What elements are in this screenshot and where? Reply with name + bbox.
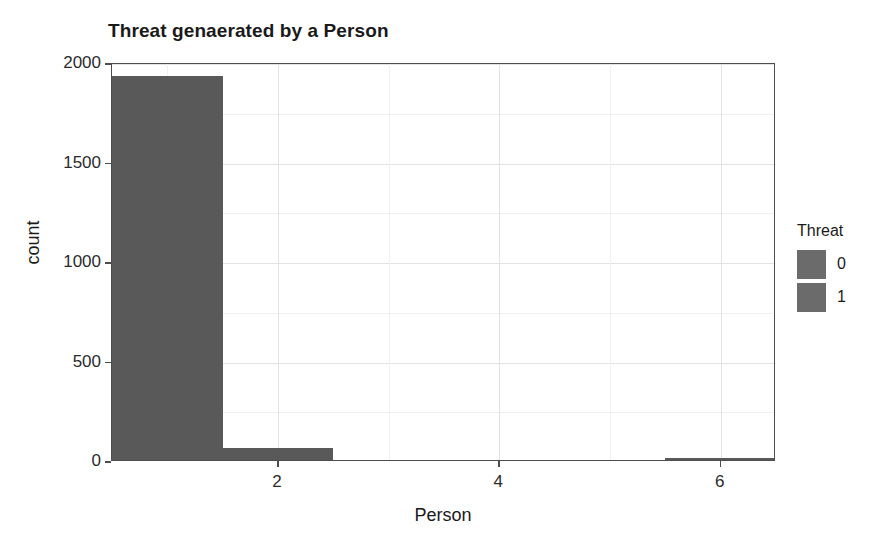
bar <box>112 76 223 460</box>
chart-figure: Threat genaerated by a Person count 0500… <box>0 0 893 556</box>
legend-title: Threat <box>797 222 846 240</box>
chart-legend: Threat 01 <box>797 222 846 312</box>
gridline-vertical-minor <box>389 64 390 460</box>
y-tick: 2000 <box>0 53 101 73</box>
x-tick-label: 2 <box>257 472 297 492</box>
gridline-vertical-major <box>499 64 500 460</box>
chart-title: Threat genaerated by a Person <box>108 20 389 42</box>
bar <box>665 458 775 460</box>
legend-items: 01 <box>797 249 846 312</box>
y-tick-label: 500 <box>47 352 101 372</box>
y-tick: 1000 <box>0 252 101 272</box>
x-tick-label: 4 <box>478 472 518 492</box>
y-tick-label: 2000 <box>47 53 101 73</box>
y-tick-mark <box>105 461 111 463</box>
y-tick-label: 1000 <box>47 252 101 272</box>
y-tick: 500 <box>0 352 101 372</box>
y-tick-label: 0 <box>47 451 101 471</box>
x-axis-title: Person <box>111 505 775 526</box>
legend-item[interactable]: 1 <box>797 282 846 312</box>
legend-item[interactable]: 0 <box>797 249 846 279</box>
x-tick-mark <box>498 461 500 467</box>
y-tick: 1500 <box>0 153 101 173</box>
y-axis-title: count <box>23 188 44 298</box>
legend-key-swatch <box>797 283 826 312</box>
bar <box>223 448 334 460</box>
x-tick-mark <box>720 461 722 467</box>
gridline-vertical-major <box>721 64 722 460</box>
gridline-vertical-major <box>278 64 279 460</box>
gridline-horizontal-major <box>112 64 774 65</box>
x-tick-label: 6 <box>700 472 740 492</box>
plot-panel <box>111 63 775 461</box>
x-tick-mark <box>277 461 279 467</box>
y-tick: 0 <box>0 451 101 471</box>
gridline-vertical-minor <box>610 64 611 460</box>
legend-key-swatch <box>797 250 826 279</box>
legend-label: 0 <box>837 255 846 273</box>
y-tick-label: 1500 <box>47 153 101 173</box>
legend-label: 1 <box>837 288 846 306</box>
